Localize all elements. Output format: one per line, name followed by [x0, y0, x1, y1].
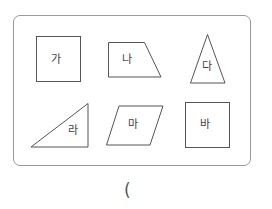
right-triangle-ra-shape	[31, 104, 88, 148]
label-ba: 바	[200, 119, 210, 130]
answer-open-paren: (	[124, 182, 131, 199]
label-ma: 마	[128, 119, 138, 130]
label-na: 나	[122, 54, 132, 65]
label-ra: 라	[68, 125, 78, 136]
label-ga: 가	[51, 54, 61, 65]
trapezoid-na-shape	[109, 43, 162, 78]
triangle-da-shape	[191, 35, 226, 84]
shapes-canvas	[0, 0, 272, 209]
label-da: 다	[202, 61, 212, 72]
